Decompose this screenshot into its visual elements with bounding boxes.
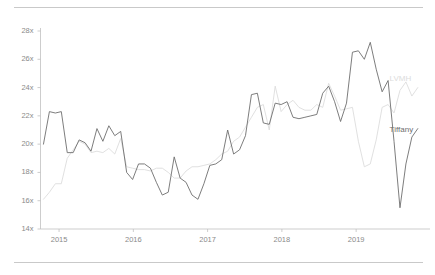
y-axis-tick-label: 24x: [12, 83, 34, 92]
series-group: [43, 42, 417, 207]
x-axis-tick-label: 2018: [262, 235, 302, 244]
y-axis-tick-label: 22x: [12, 111, 34, 120]
chart-figure: 14x16x18x20x22x24x26x28x 201520162017201…: [0, 0, 435, 275]
x-axis-tick-label: 2015: [39, 235, 79, 244]
series-label-lvmh: LVMH: [390, 74, 412, 83]
x-axis-tick-label: 2017: [188, 235, 228, 244]
y-axis-tick-label: 28x: [12, 26, 34, 35]
y-axis-tick-label: 20x: [12, 139, 34, 148]
series-line-tiffany: [43, 42, 417, 207]
line-chart-plot: [0, 0, 435, 275]
y-axis-tick-label: 26x: [12, 54, 34, 63]
series-label-tiffany: Tiffany: [390, 125, 414, 134]
x-axis-tick-label: 2019: [336, 235, 376, 244]
y-axis-tick-label: 16x: [12, 196, 34, 205]
y-axis-tick-label: 18x: [12, 167, 34, 176]
x-axis-tick-label: 2016: [113, 235, 153, 244]
y-axis-tick-label: 14x: [12, 224, 34, 233]
